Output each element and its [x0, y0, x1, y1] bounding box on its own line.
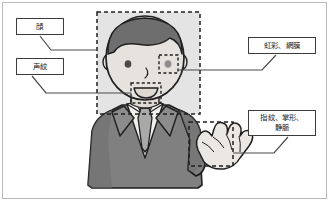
callout-face-label: 顔: [36, 22, 43, 32]
connector-face: [40, 36, 97, 50]
callout-hand[interactable]: 指紋、掌形、 静脈: [248, 110, 316, 136]
callout-iris-label: 虹彩、網膜: [264, 41, 300, 51]
callout-face[interactable]: 顔: [16, 18, 64, 35]
eye-right-iris: [165, 60, 172, 68]
callout-voiceprint-label: 声紋: [33, 62, 47, 72]
callout-voiceprint[interactable]: 声紋: [16, 58, 64, 75]
hand: [197, 123, 253, 170]
diagram-canvas: 顔 声紋 虹彩、網膜 指紋、掌形、 静脈: [0, 0, 331, 203]
suit-left-panel: [88, 110, 112, 188]
callout-iris[interactable]: 虹彩、網膜: [248, 37, 316, 54]
eye-left: [125, 60, 132, 68]
callout-hand-label: 指紋、掌形、 静脈: [260, 113, 303, 133]
palm: [197, 123, 253, 170]
